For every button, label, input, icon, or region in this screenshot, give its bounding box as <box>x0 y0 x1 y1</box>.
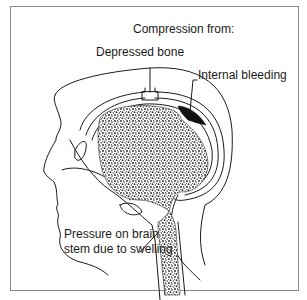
label-depressed-bone: Depressed bone <box>96 46 184 59</box>
brain-mass <box>98 105 208 295</box>
label-pressure-line1: Pressure on brain <box>64 228 159 241</box>
label-pressure-line2: stem due to swelling <box>64 243 173 256</box>
diagram-title: Compression from: <box>133 23 234 36</box>
label-internal-bleeding: Internal bleeding <box>198 69 287 82</box>
depressed-bone-shape <box>142 92 158 100</box>
